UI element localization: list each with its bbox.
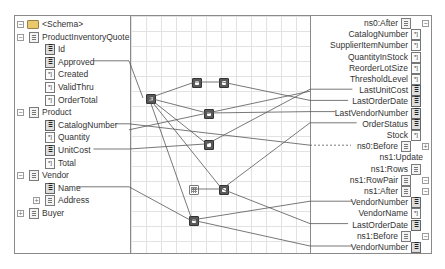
destination-schema-tree: −ns0:After*]CatalogNumber*]SupplierItemN… bbox=[311, 16, 433, 253]
collapse-toggle[interactable]: − bbox=[422, 233, 429, 240]
collapse-toggle[interactable]: − bbox=[17, 34, 24, 41]
destination-tree-item[interactable]: *]ReorderLotSize bbox=[311, 62, 433, 74]
collapse-toggle[interactable]: − bbox=[17, 21, 24, 28]
tree-label: ValidThru bbox=[58, 81, 94, 93]
tree-label: ReorderLotSize bbox=[349, 62, 408, 74]
destination-tree-item[interactable]: −ns1:RowPair bbox=[311, 174, 433, 186]
destination-tree-item[interactable]: −ns1:After bbox=[311, 185, 433, 197]
tree-label: CatalogNumber bbox=[348, 28, 408, 40]
destination-tree-item[interactable]: ≣LastVendorNumber bbox=[311, 107, 433, 119]
element-icon bbox=[29, 107, 39, 118]
tree-label: Vendor bbox=[42, 169, 69, 181]
destination-tree-item[interactable]: ≣LastOrderDate bbox=[311, 95, 433, 107]
destination-tree-item[interactable]: −ns0:After bbox=[311, 17, 433, 29]
destination-tree-item[interactable]: ≣VendorNumber bbox=[311, 196, 433, 208]
destination-tree-item[interactable]: *]Stock bbox=[311, 129, 433, 141]
collapse-toggle[interactable]: − bbox=[17, 109, 24, 116]
element-icon bbox=[29, 208, 39, 219]
key-field-icon: ≣ bbox=[45, 44, 55, 55]
destination-tree-item[interactable]: +ns0:Before bbox=[311, 140, 433, 152]
tree-label: ProductInventoryQuote bbox=[42, 31, 129, 43]
functoid-table[interactable] bbox=[189, 185, 199, 195]
tree-label: ns0:After bbox=[364, 17, 398, 29]
functoid-script-3[interactable] bbox=[204, 140, 214, 150]
tree-label: Total bbox=[58, 157, 76, 169]
tree-label: VendorNumber bbox=[351, 196, 408, 208]
destination-tree-item[interactable]: *]SupplierItemNumber bbox=[311, 39, 433, 51]
tree-label: OrderTotal bbox=[58, 94, 98, 106]
attribute-icon: *] bbox=[45, 132, 55, 143]
tree-label: SupplierItemNumber bbox=[330, 39, 408, 51]
functoid-script-1[interactable] bbox=[219, 78, 229, 88]
destination-tree-item[interactable]: ≣VendorNumber bbox=[311, 241, 433, 253]
tree-label: Created bbox=[58, 68, 88, 80]
mapping-grid[interactable] bbox=[130, 16, 311, 253]
tree-label: ns1:Before bbox=[357, 230, 398, 242]
destination-tree-item[interactable]: *]ThresholdLevel bbox=[311, 73, 433, 85]
tree-label: ThresholdLevel bbox=[350, 73, 408, 85]
tree-label: ns1:Update bbox=[380, 151, 423, 163]
functoid-script-2[interactable] bbox=[204, 109, 214, 119]
tree-label: ns1:Rows bbox=[371, 163, 408, 175]
tree-label: LastUnitCost bbox=[359, 84, 408, 96]
tree-label: ns1:RowPair bbox=[350, 174, 398, 186]
destination-tree-item[interactable]: ns1:Update bbox=[311, 151, 433, 163]
destination-tree-item[interactable]: *]CatalogNumber bbox=[311, 28, 433, 40]
destination-tree-item[interactable]: ≣OrderStatus bbox=[311, 118, 433, 130]
tree-label: ns0:Before bbox=[357, 140, 398, 152]
tree-label: CatalogNumber bbox=[58, 119, 118, 131]
element-icon bbox=[29, 170, 39, 181]
source-schema-tree: −<Schema>−ProductInventoryQuote≣Id≣Appro… bbox=[15, 16, 130, 253]
destination-tree-item[interactable]: ≣LastOrderDate bbox=[311, 219, 433, 231]
tree-label: <Schema> bbox=[42, 18, 83, 30]
collapse-toggle[interactable]: − bbox=[422, 177, 429, 184]
folder-icon bbox=[27, 20, 39, 29]
attribute-icon: *] bbox=[45, 158, 55, 169]
functoid-script-5[interactable] bbox=[189, 216, 199, 226]
expand-toggle[interactable]: + bbox=[33, 197, 40, 204]
attribute-icon: *] bbox=[45, 69, 55, 80]
attribute-icon: *] bbox=[45, 82, 55, 93]
functoid-logical[interactable] bbox=[146, 94, 156, 104]
tree-label: VendorNumber bbox=[351, 241, 408, 253]
functoid-string-1[interactable] bbox=[192, 78, 202, 88]
tree-label: Stock bbox=[387, 129, 408, 141]
functoid-script-4[interactable] bbox=[219, 185, 229, 195]
tree-label: VendorName bbox=[358, 207, 408, 219]
attribute-icon: *] bbox=[45, 95, 55, 106]
key-field-icon: ≣ bbox=[411, 242, 421, 253]
collapse-toggle[interactable]: − bbox=[422, 188, 429, 195]
tree-label: LastVendorNumber bbox=[335, 107, 408, 119]
destination-tree-item[interactable]: *]VendorName bbox=[311, 207, 433, 219]
tree-label: Product bbox=[42, 106, 71, 118]
element-icon bbox=[29, 32, 39, 43]
tree-label: QuantityInStock bbox=[348, 51, 408, 63]
key-field-icon: ≣ bbox=[45, 145, 55, 156]
expand-toggle[interactable]: + bbox=[17, 210, 24, 217]
key-field-icon: ≣ bbox=[45, 183, 55, 194]
tree-label: Name bbox=[58, 182, 81, 194]
destination-tree-item[interactable]: ≣LastUnitCost bbox=[311, 84, 433, 96]
destination-tree-item[interactable]: −ns1:Before bbox=[311, 230, 433, 242]
expand-toggle[interactable]: + bbox=[422, 143, 429, 150]
tree-label: Id bbox=[58, 43, 65, 55]
collapse-toggle[interactable]: − bbox=[17, 172, 24, 179]
tree-label: UnitCost bbox=[58, 144, 91, 156]
tree-label: Quantity bbox=[58, 131, 90, 143]
destination-tree-item[interactable]: ns1:Rows bbox=[311, 163, 433, 175]
key-field-icon: ≣ bbox=[45, 120, 55, 131]
tree-label: Approved bbox=[58, 56, 94, 68]
tree-label: OrderStatus bbox=[362, 118, 408, 130]
destination-tree-item[interactable]: *]QuantityInStock bbox=[311, 51, 433, 63]
collapse-toggle[interactable]: − bbox=[422, 20, 429, 27]
element-icon bbox=[45, 195, 55, 206]
tree-label: ns1:After bbox=[364, 185, 398, 197]
tree-label: LastOrderDate bbox=[352, 219, 408, 231]
tree-label: Buyer bbox=[42, 207, 64, 219]
mapper-frame: −<Schema>−ProductInventoryQuote≣Id≣Appro… bbox=[14, 15, 432, 254]
tree-label: LastOrderDate bbox=[352, 95, 408, 107]
key-field-icon: ≣ bbox=[45, 57, 55, 68]
tree-label: Address bbox=[58, 194, 89, 206]
